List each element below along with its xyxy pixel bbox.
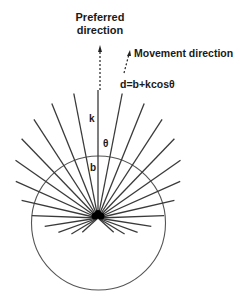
formula-label: d=b+kcosθ: [120, 78, 175, 90]
ray-line: [98, 160, 181, 218]
movement-direction-arrow: [124, 50, 131, 73]
ray-line: [16, 160, 99, 218]
preferred-direction-arrow: [98, 45, 102, 90]
tuning-diagram: Preferred direction Movement direction d…: [0, 0, 244, 308]
k-label: k: [89, 113, 95, 124]
movement-direction-label: Movement direction: [134, 47, 233, 59]
b-label: b: [90, 162, 96, 173]
preferred-direction-label-line2: direction: [77, 24, 124, 36]
ray-line: [22, 139, 98, 218]
preferred-direction-label-line1: Preferred: [76, 11, 125, 23]
theta-label: θ: [103, 138, 108, 149]
